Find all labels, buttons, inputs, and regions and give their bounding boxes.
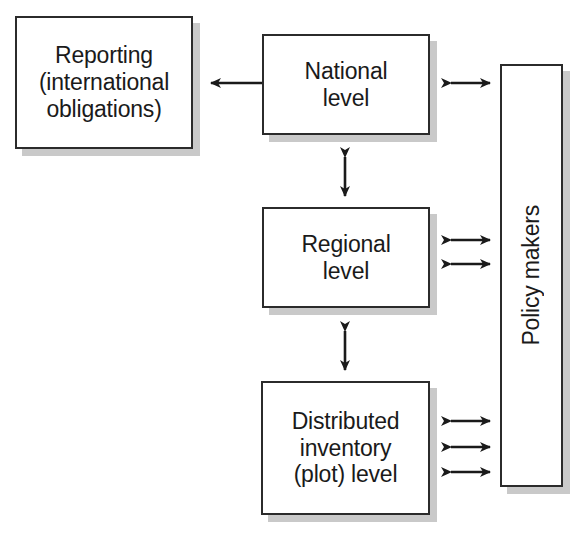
node-reporting-label: Reporting (international obligations) bbox=[39, 42, 169, 122]
node-national-level: National level bbox=[262, 34, 430, 135]
diagram-canvas: Reporting (international obligations) Na… bbox=[0, 0, 586, 535]
node-policy-makers-label: Policy makers bbox=[518, 205, 545, 346]
node-national-level-label: National level bbox=[305, 58, 388, 111]
node-regional-level-label: Regional level bbox=[301, 231, 390, 284]
node-distributed-inventory-plot-level-label: Distributed inventory (plot) level bbox=[292, 408, 400, 488]
node-distributed-inventory-plot-level: Distributed inventory (plot) level bbox=[261, 381, 430, 515]
node-regional-level: Regional level bbox=[262, 207, 430, 308]
node-policy-makers: Policy makers bbox=[500, 64, 563, 487]
node-reporting: Reporting (international obligations) bbox=[15, 16, 193, 149]
